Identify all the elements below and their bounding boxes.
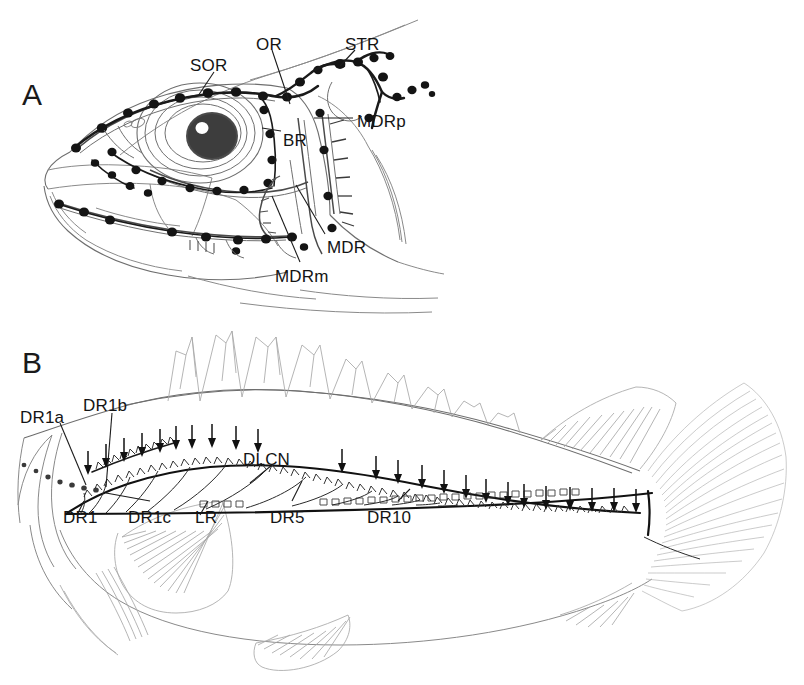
figure-canvas: A B SOR OR STR BR MDRp MDR MDRm DR1a DR1… xyxy=(0,0,804,685)
label-mdrp: MDRp xyxy=(357,113,406,130)
label-mdr: MDR xyxy=(327,239,366,256)
panel-a-letter: A xyxy=(22,80,42,110)
label-dr1b: DR1b xyxy=(83,397,127,414)
label-lr: LR xyxy=(195,509,217,526)
panel-b-illustration xyxy=(0,325,804,685)
label-str: STR xyxy=(345,36,380,53)
label-br: BR xyxy=(283,132,307,149)
panel-b-letter: B xyxy=(22,348,42,378)
label-dr5: DR5 xyxy=(270,509,305,526)
panel-a-illustration xyxy=(0,0,804,330)
label-dr1a: DR1a xyxy=(20,409,64,426)
label-sor: SOR xyxy=(190,57,227,74)
label-dlcn: DLCN xyxy=(243,451,290,468)
label-dr1: DR1 xyxy=(63,509,98,526)
neuromast-arrows xyxy=(84,424,640,513)
label-mdrm: MDRm xyxy=(275,268,329,285)
label-dr10: DR10 xyxy=(367,509,411,526)
label-dr1c: DR1c xyxy=(128,509,171,526)
label-or: OR xyxy=(256,36,282,53)
